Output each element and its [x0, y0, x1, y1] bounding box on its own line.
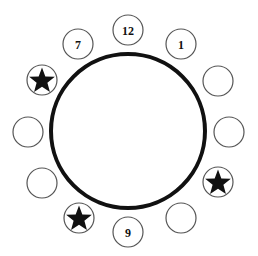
seat-lower-left [64, 203, 94, 233]
seat-number-label: 7 [75, 38, 81, 52]
seat-left-1 [27, 65, 57, 95]
seat-upper-left: 7 [63, 29, 93, 59]
seat-circle [27, 168, 57, 198]
seat-circle [214, 117, 244, 147]
seat-circle [166, 203, 196, 233]
seat-right-3 [203, 167, 233, 197]
seat-number-label: 1 [178, 38, 184, 52]
seat-top: 12 [113, 15, 143, 45]
seat-circle [203, 66, 233, 96]
seat-left-3 [27, 168, 57, 198]
seating-diagram: 12197 [0, 0, 258, 256]
seat-bottom: 9 [113, 217, 143, 247]
seat-number-label: 9 [125, 226, 131, 240]
seat-number-label: 12 [122, 24, 134, 38]
seat-right-1 [203, 66, 233, 96]
seat-lower-right [166, 203, 196, 233]
seat-left-2 [13, 117, 43, 147]
seat-upper-right: 1 [166, 29, 196, 59]
seat-circle [13, 117, 43, 147]
seat-right-2 [214, 117, 244, 147]
